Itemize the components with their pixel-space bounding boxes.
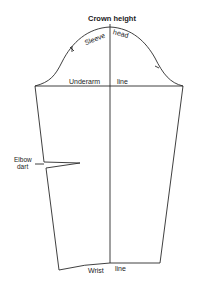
- underarm-line-label: line: [117, 78, 128, 85]
- left-underarm-seam: [35, 86, 80, 270]
- front-notch-mark: [70, 46, 74, 52]
- right-underarm-seam: [160, 86, 183, 263]
- wrist-line: [59, 263, 160, 270]
- sleeve-head-curve: [35, 27, 183, 86]
- wrist-line-label: line: [115, 265, 126, 272]
- crown-height-label: Crown height: [88, 14, 136, 23]
- underarm-label: Underarm: [69, 78, 100, 85]
- wrist-label: Wrist: [88, 267, 104, 274]
- dart-label: dart: [17, 163, 28, 170]
- elbow-label: Elbow: [14, 156, 32, 163]
- sleeve-pattern-diagram: Crown height Sleeve head Underarm line E…: [0, 0, 197, 292]
- head-label: head: [112, 28, 129, 39]
- back-notch-mark: [155, 66, 159, 68]
